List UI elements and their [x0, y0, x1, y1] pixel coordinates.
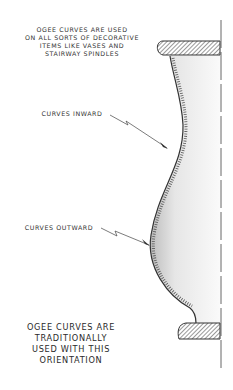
footer-note-line: ORIENTATION	[12, 355, 130, 366]
vase-lip	[157, 41, 220, 55]
footer-note-line: TRADITIONALLY	[12, 333, 130, 344]
footer-note: OGEE CURVES ARE TRADITIONALLY USED WITH …	[12, 322, 130, 366]
footer-note-line: USED WITH THIS	[12, 344, 130, 355]
vase-body	[150, 56, 220, 323]
vase-foot	[178, 323, 220, 339]
inward-arrow	[110, 115, 167, 148]
footer-note-line: OGEE CURVES ARE	[12, 322, 130, 333]
callout-inward: CURVES INWARD	[36, 110, 108, 118]
callout-outward: CURVES OUTWARD	[18, 224, 100, 232]
outward-arrow	[101, 228, 149, 245]
